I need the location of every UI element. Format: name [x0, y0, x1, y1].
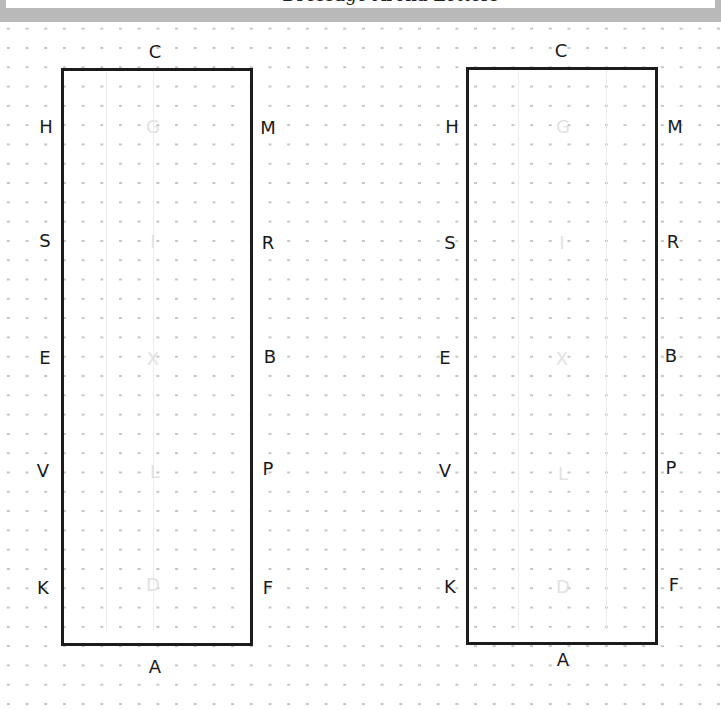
letter-center: D — [556, 577, 570, 597]
letter-left: S — [444, 233, 455, 253]
letter-right: P — [666, 458, 677, 478]
letter-center: L — [558, 464, 568, 484]
letter-top: C — [149, 42, 162, 62]
letter-right: R — [262, 233, 275, 253]
letter-bottom: A — [557, 650, 569, 670]
letter-right: B — [264, 347, 276, 367]
letter-center: I — [150, 232, 155, 252]
letter-left: E — [439, 348, 450, 368]
page-title: Dressage Arena Letters — [6, 0, 715, 4]
letter-center: D — [146, 575, 160, 595]
letter-left: V — [439, 461, 451, 481]
letter-center: X — [556, 349, 568, 369]
letter-left: H — [445, 117, 459, 137]
letter-right: P — [263, 459, 274, 479]
letter-center: L — [150, 462, 160, 482]
centerline-guide — [106, 71, 107, 631]
letter-right: M — [260, 118, 276, 138]
letter-bottom: A — [149, 657, 161, 677]
letter-left: K — [444, 577, 456, 597]
letter-right: M — [667, 117, 683, 137]
letter-center: X — [147, 349, 159, 369]
letter-left: H — [39, 117, 53, 137]
centerline-guide — [606, 70, 607, 630]
letter-right: R — [667, 232, 680, 252]
letter-right: F — [669, 575, 679, 595]
letter-right: F — [263, 578, 273, 598]
letter-left: S — [39, 231, 50, 251]
letter-center: I — [559, 233, 564, 253]
letter-top: C — [555, 41, 568, 61]
letter-center: G — [146, 117, 160, 137]
letter-right: B — [665, 346, 677, 366]
letter-left: V — [37, 461, 49, 481]
centerline-guide — [518, 70, 519, 630]
letter-center: G — [556, 117, 570, 137]
letter-left: K — [37, 578, 49, 598]
header-frame: Dressage Arena Letters — [0, 0, 721, 22]
letter-left: E — [39, 348, 50, 368]
header-strip: Dressage Arena Letters — [6, 0, 715, 8]
